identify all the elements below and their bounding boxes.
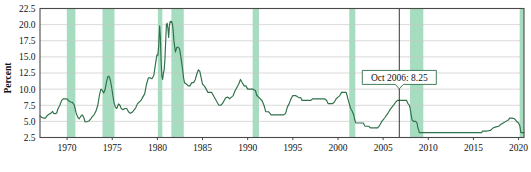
x-tick-label-9: 2015	[464, 143, 483, 153]
x-tick-label-1: 1975	[103, 143, 122, 153]
annotation-callout-label: Oct 2006: 8.25	[371, 73, 428, 83]
interest-rate-line-chart: 2.55.07.510.012.515.017.520.022.5 197019…	[0, 0, 531, 172]
y-tick-label-7: 20.0	[19, 20, 36, 30]
x-tick-label-10: 2020	[509, 143, 528, 153]
x-tick-label-6: 2000	[328, 143, 347, 153]
y-tick-label-0: 2.5	[24, 133, 36, 143]
y-tick-label-8: 22.5	[19, 4, 36, 14]
x-tick-label-8: 2010	[419, 143, 438, 153]
y-tick-label-5: 15.0	[19, 52, 36, 62]
chart-container: 2.55.07.510.012.515.017.520.022.5 197019…	[0, 0, 531, 172]
y-tick-label-2: 7.5	[24, 101, 36, 111]
y-tick-label-4: 12.5	[19, 68, 36, 78]
x-tick-label-7: 2005	[374, 143, 393, 153]
y-tick-label-3: 10.0	[19, 85, 36, 95]
x-tick-label-3: 1985	[193, 143, 212, 153]
y-axis-title-group: Percent	[3, 62, 13, 94]
x-tick-label-2: 1980	[148, 143, 167, 153]
y-tick-label-1: 5.0	[24, 117, 36, 127]
x-tick-label-5: 1995	[283, 143, 302, 153]
x-tick-label-0: 1970	[58, 143, 77, 153]
x-tick-label-4: 1990	[238, 143, 257, 153]
y-axis-title: Percent	[3, 62, 13, 94]
y-tick-label-6: 17.5	[19, 36, 36, 46]
